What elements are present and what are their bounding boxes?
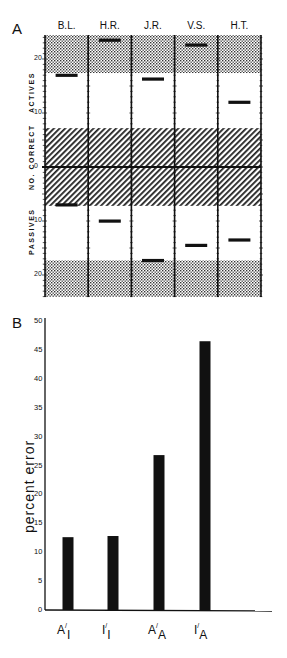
y-tick-label: 5 [38,576,42,585]
y-tick-label-passives: 10 [34,216,42,223]
passive-marker [185,244,207,247]
active-marker [142,77,164,80]
denominator: I [67,628,70,642]
y-tick-label: 25 [34,461,42,470]
passive-marker [99,220,121,223]
bar [108,536,119,610]
denominator: A [199,628,207,642]
y-tick-label: 10 [34,547,42,556]
y-tick-label: 50 [34,316,42,325]
passives-label: PASSIVES [28,209,35,256]
x-category-label: A/A [148,620,166,638]
y-tick-label: 45 [34,345,42,354]
passive-marker [142,259,164,262]
stippled-band-bottom [45,260,261,297]
y-tick-label: 35 [34,403,42,412]
active-marker [228,101,250,104]
bar [63,537,74,610]
chart-canvas [0,0,287,658]
actives-label: ACTIVES [28,72,35,113]
x-category-label: I/A [194,620,207,638]
panel-b-letter: B [12,314,22,331]
x-axis [45,610,272,611]
active-marker [99,39,121,42]
y-tick-label-passives: 20 [34,270,42,277]
y-tick-label-actives: 10 [34,108,42,115]
denominator: A [158,628,166,642]
no-correct-label: NO. CORRECT [28,125,35,191]
panel-b-chart [45,318,272,611]
active-marker [185,43,207,46]
denominator: I [107,628,110,642]
active-marker [56,74,78,77]
y-tick-label: 0 [38,605,42,614]
bar [154,455,165,610]
x-category-label: I/I [102,620,111,638]
numerator: A [57,623,65,637]
stippled-band-top [45,35,261,73]
bar [200,341,211,610]
numerator: A [148,623,156,637]
passive-marker [228,238,250,241]
y-tick-label-actives: 20 [34,54,42,61]
x-category-label: A/I [57,620,70,638]
y-tick-label: 40 [34,374,42,383]
passive-marker [56,203,78,206]
panel-a-chart [42,35,263,297]
y-tick-label: 30 [34,432,42,441]
y-tick-label: 20 [34,489,42,498]
y-tick-label: 15 [34,518,42,527]
